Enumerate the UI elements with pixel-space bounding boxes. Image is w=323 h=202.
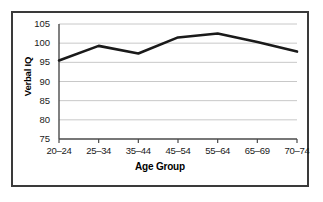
y-tick-label: 75 bbox=[24, 133, 50, 144]
x-tick-label: 35–44 bbox=[118, 145, 158, 156]
y-axis-title: Verbal IQ bbox=[22, 51, 33, 103]
y-tick-label: 80 bbox=[24, 114, 50, 125]
line-chart-plot bbox=[13, 13, 307, 185]
gridlines-group bbox=[59, 24, 297, 139]
x-tick-label: 55–64 bbox=[198, 145, 238, 156]
data-series-line bbox=[59, 34, 297, 61]
x-tick-label: 65–69 bbox=[237, 145, 277, 156]
x-tick-label: 25–34 bbox=[79, 145, 119, 156]
y-tick-label: 100 bbox=[24, 37, 50, 48]
x-axis-title: Age Group bbox=[13, 161, 307, 172]
x-tick-label: 20–24 bbox=[39, 145, 79, 156]
y-tick-label: 105 bbox=[24, 18, 50, 29]
x-tick-label: 45–54 bbox=[158, 145, 198, 156]
chart-figure-frame: 7580859095100105 20–2425–3435–4445–5455–… bbox=[11, 11, 309, 187]
x-tick-label: 70–74 bbox=[277, 145, 317, 156]
